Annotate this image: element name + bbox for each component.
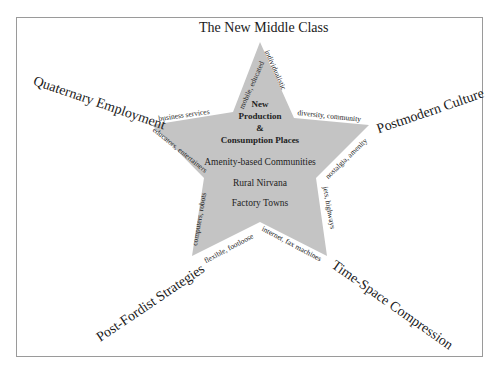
center-item-amenity-based-communities: Amenity-based Communities: [204, 158, 316, 168]
center-item-factory-towns: Factory Towns: [232, 199, 288, 209]
center-title-line-3: &: [256, 124, 264, 133]
center-title-line-4: Consumption Places: [221, 136, 299, 145]
center-item-rural-nirvana: Rural Nirvana: [233, 179, 287, 189]
axis-label-top: The New Middle Class: [199, 21, 328, 35]
center-title-line-1: New: [252, 100, 269, 109]
center-title-line-2: Production: [239, 112, 282, 121]
